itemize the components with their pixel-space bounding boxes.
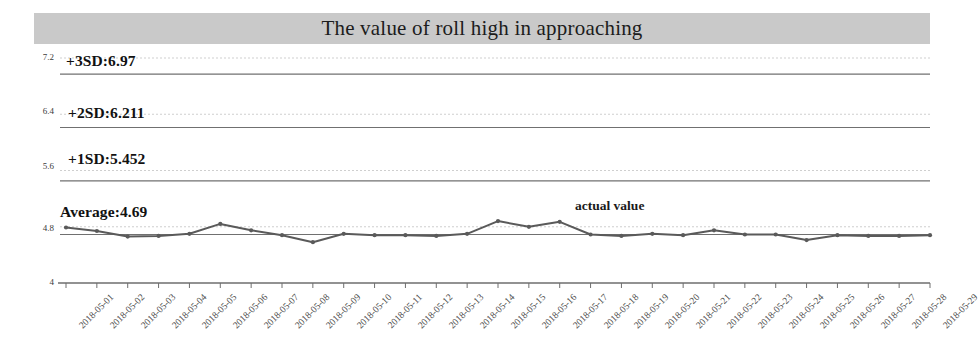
data-point[interactable] xyxy=(403,233,407,237)
y-axis-tick-label: 4.8 xyxy=(28,223,54,233)
data-point[interactable] xyxy=(95,229,99,233)
band-label-plus2sd: +2SD:6.211 xyxy=(68,104,145,122)
data-point[interactable] xyxy=(619,234,623,238)
data-point[interactable] xyxy=(496,219,500,223)
data-point[interactable] xyxy=(650,232,654,236)
data-point[interactable] xyxy=(126,235,130,239)
data-point[interactable] xyxy=(342,232,346,236)
data-point[interactable] xyxy=(157,234,161,238)
y-axis-tick-label: 5.6 xyxy=(28,161,54,171)
data-point[interactable] xyxy=(928,233,932,237)
band-label-plus3sd: +3SD:6.97 xyxy=(66,52,136,70)
data-point[interactable] xyxy=(434,234,438,238)
y-axis-tick-label: 4 xyxy=(28,277,54,287)
data-point[interactable] xyxy=(558,220,562,224)
y-axis-tick-label: 7.2 xyxy=(28,52,54,62)
data-point[interactable] xyxy=(835,233,839,237)
data-point[interactable] xyxy=(681,233,685,237)
data-point[interactable] xyxy=(589,232,593,236)
data-point[interactable] xyxy=(897,234,901,238)
data-point[interactable] xyxy=(712,228,716,232)
data-point[interactable] xyxy=(774,232,778,236)
data-point[interactable] xyxy=(187,232,191,236)
data-point[interactable] xyxy=(249,228,253,232)
data-point[interactable] xyxy=(866,234,870,238)
band-label-plus1sd: +1SD:5.452 xyxy=(68,150,145,168)
band-label-average: Average:4.69 xyxy=(60,203,147,221)
data-point[interactable] xyxy=(465,232,469,236)
data-point[interactable] xyxy=(280,233,284,237)
data-point[interactable] xyxy=(64,225,68,229)
data-point[interactable] xyxy=(218,222,222,226)
y-axis-tick-label: 6.4 xyxy=(28,106,54,116)
series-line-actual-value[interactable] xyxy=(66,221,930,242)
data-point[interactable] xyxy=(743,232,747,236)
series-legend-label: actual value xyxy=(575,198,644,214)
data-point[interactable] xyxy=(311,240,315,244)
data-point[interactable] xyxy=(527,225,531,229)
data-point[interactable] xyxy=(805,238,809,242)
data-point[interactable] xyxy=(373,233,377,237)
